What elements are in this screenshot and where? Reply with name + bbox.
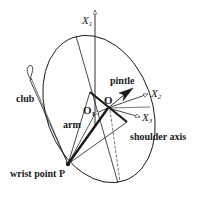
wrist-point-marker xyxy=(66,162,70,166)
label-wrist-point: wrist point P xyxy=(10,168,65,179)
label-arm: arm xyxy=(63,119,81,130)
label-shoulder-axis: shoulder axis xyxy=(130,131,186,142)
label-x1: X1 xyxy=(81,14,92,28)
arm-bold xyxy=(68,108,108,164)
plane-line-top xyxy=(76,36,92,92)
label-club: club xyxy=(16,93,35,104)
pintle-arrowhead-icon xyxy=(119,88,133,101)
label-x2: X2 xyxy=(150,87,162,101)
label-x3: X3 xyxy=(141,111,153,125)
golf-swing-diagram: X1 pintle X2 X3 O O1 club arm shoulder a… xyxy=(0,0,197,198)
horizontal-ref-line xyxy=(108,107,150,108)
club-head xyxy=(27,65,33,80)
label-pintle: pintle xyxy=(110,75,135,86)
x2-axis-line xyxy=(108,94,148,108)
label-o-lower: O1 xyxy=(83,104,96,118)
label-o-upper: O xyxy=(104,94,113,106)
x3-axis-line xyxy=(108,108,140,117)
